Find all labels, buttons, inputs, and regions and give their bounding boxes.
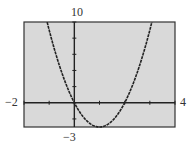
graph-screen — [0, 0, 192, 147]
x-min-label: −2 — [5, 96, 18, 108]
x-max-label: 4 — [180, 96, 186, 108]
y-min-label: −3 — [63, 131, 76, 143]
plot-frame — [24, 22, 175, 127]
y-max-label: 10 — [71, 6, 83, 18]
